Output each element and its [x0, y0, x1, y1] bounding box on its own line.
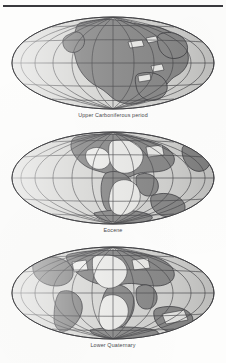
- map-eocene: [10, 129, 216, 227]
- top-horizontal-rule: [3, 5, 223, 7]
- map-caption-lower-quaternary: Lower Quaternary: [0, 342, 226, 348]
- map-block-lower-quaternary: Lower Quaternary: [0, 242, 226, 357]
- figure-page: Upper Carboniferous period: [0, 0, 226, 363]
- map-block-upper-carboniferous: Upper Carboniferous period: [0, 12, 226, 127]
- map-lower-quaternary: [10, 244, 216, 342]
- map-block-eocene: Eocene: [0, 127, 226, 242]
- map-caption-eocene: Eocene: [0, 227, 226, 233]
- sphere-shading: [10, 244, 216, 342]
- sphere-shading: [10, 14, 216, 112]
- map-stack: Upper Carboniferous period: [0, 12, 226, 357]
- sphere-shading: [10, 129, 216, 227]
- map-caption-upper-carboniferous: Upper Carboniferous period: [0, 112, 226, 118]
- map-upper-carboniferous: [10, 14, 216, 112]
